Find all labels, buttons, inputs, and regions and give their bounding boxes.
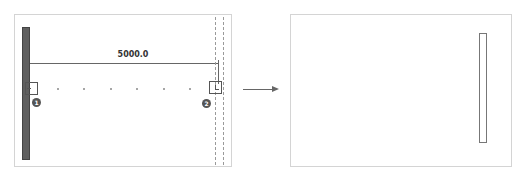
grid-point: [110, 88, 112, 90]
right-arrow-icon: [272, 86, 279, 92]
node-marker-icon: [27, 88, 31, 89]
grid-point: [83, 88, 85, 90]
grid-point: [57, 88, 59, 90]
after-panel: [290, 14, 512, 167]
node-1-box: [25, 82, 38, 95]
node-2-badge: 2: [202, 99, 211, 108]
dimension-line: [30, 63, 219, 64]
node-2-box: [209, 81, 222, 94]
node-marker-icon-foot: [215, 89, 219, 90]
result-rectangle: [479, 33, 487, 143]
before-panel: 5000.0 1 2: [14, 14, 232, 167]
grid-point: [189, 88, 191, 90]
grid-point: [163, 88, 165, 90]
grid-line-dashed: [223, 17, 224, 165]
node-1-badge: 1: [32, 98, 41, 107]
transition-arrow-shaft: [243, 89, 273, 90]
grid-point: [136, 88, 138, 90]
dimension-label: 5000.0: [103, 50, 163, 59]
